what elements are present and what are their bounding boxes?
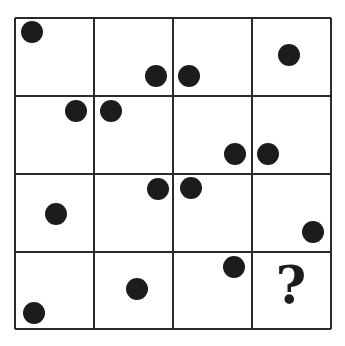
dot-r4c3: [223, 256, 245, 278]
dot-r2c3: [224, 143, 246, 165]
dot-r2c2: [100, 100, 122, 122]
dot-r4c1: [23, 302, 45, 324]
dot-r3c3: [180, 177, 202, 199]
dot-grid-puzzle: ?: [0, 0, 345, 346]
dot-r2c1: [65, 100, 87, 122]
dot-r1c2: [145, 65, 167, 87]
dot-r4c2: [126, 278, 148, 300]
dot-r1c3: [178, 65, 200, 87]
question-mark: ?: [276, 254, 306, 315]
dot-r2c4: [257, 143, 279, 165]
dot-r3c2: [147, 178, 169, 200]
dot-r3c1: [45, 203, 67, 225]
dot-r1c4: [278, 44, 300, 66]
dot-r1c1: [21, 21, 43, 43]
dot-r3c4: [302, 221, 324, 243]
